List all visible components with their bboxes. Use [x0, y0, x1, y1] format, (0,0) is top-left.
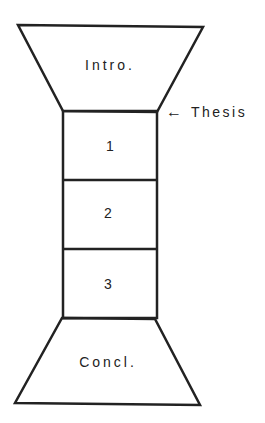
intro-label: Intro.	[85, 57, 135, 73]
thesis-label: Thesis	[191, 104, 247, 120]
body-2-label: 2	[104, 205, 112, 221]
conclusion-label: Concl.	[79, 354, 137, 370]
body-3-label: 3	[104, 276, 112, 292]
thesis-arrow-icon: ←	[166, 103, 182, 120]
body-1-label: 1	[106, 138, 114, 154]
essay-structure-diagram: Intro. 1 2 3 Concl. ← Thesis	[0, 0, 265, 423]
